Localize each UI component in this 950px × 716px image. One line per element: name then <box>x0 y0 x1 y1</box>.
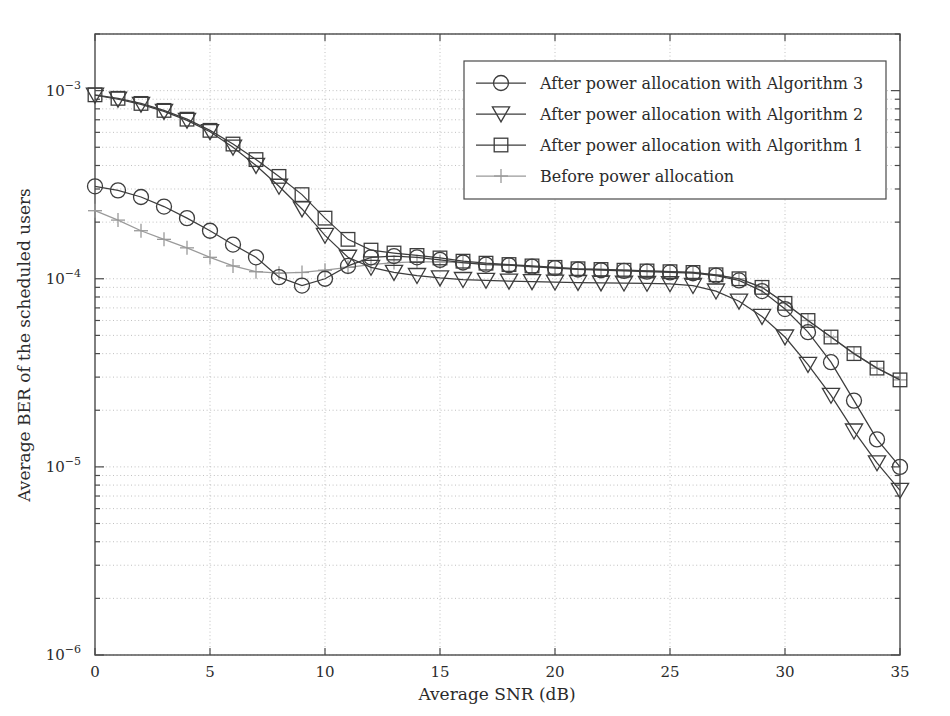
ber-vs-snr-chart: 0510152025303510−310−410−510−6 After pow… <box>0 0 950 716</box>
legend-item-label: After power allocation with Algorithm 1 <box>539 136 863 155</box>
legend-item-label: After power allocation with Algorithm 2 <box>539 105 863 124</box>
x-axis-label: Average SNR (dB) <box>417 684 575 704</box>
x-tick-label: 15 <box>430 663 449 681</box>
x-tick-label: 5 <box>205 663 215 681</box>
legend-item-label: After power allocation with Algorithm 3 <box>539 74 863 93</box>
x-tick-label: 30 <box>775 663 794 681</box>
x-tick-label: 0 <box>90 663 100 681</box>
legend[interactable]: After power allocation with Algorithm 3A… <box>464 61 886 199</box>
x-tick-label: 25 <box>660 663 679 681</box>
x-tick-label: 35 <box>890 663 909 681</box>
legend-item-label: Before power allocation <box>540 167 734 186</box>
x-tick-label: 20 <box>545 663 564 681</box>
chart-page: 0510152025303510−310−410−510−6 After pow… <box>0 0 950 716</box>
y-axis-label: Average BER of the scheduled users <box>14 188 34 503</box>
x-tick-label: 10 <box>315 663 334 681</box>
